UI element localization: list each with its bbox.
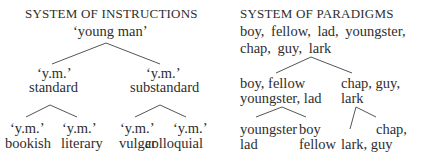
- right-l2-line1: youngster: [240, 122, 297, 136]
- left-l2-label: bookish: [5, 136, 51, 150]
- right-l1-line2: lark: [341, 91, 364, 105]
- left-l1-code: ‘y.m.’: [37, 66, 72, 80]
- branch-line: [26, 105, 50, 117]
- left-l2-label: colloquial: [145, 136, 203, 150]
- branch-line: [350, 107, 356, 129]
- left-l2-code: ‘y.m.’: [173, 121, 208, 135]
- branch-line: [311, 57, 352, 73]
- right-l2-line1: boy: [299, 122, 321, 136]
- left-l2-code: ‘y.m.’: [120, 121, 155, 135]
- branch-line: [106, 43, 160, 64]
- right-root-line2: chap, guy, lark: [240, 41, 331, 55]
- left-root: ‘young man’: [73, 24, 148, 38]
- branch-line: [50, 105, 77, 117]
- right-title: SYSTEM OF PARADIGMS: [240, 7, 394, 21]
- branch-line: [276, 57, 311, 73]
- left-l1-label: standard: [29, 80, 78, 94]
- right-l1-line2: youngster, lad: [240, 91, 322, 105]
- left-l2-label: literary: [61, 136, 103, 150]
- left-l1-label: substandard: [130, 80, 199, 94]
- branch-line: [52, 43, 106, 64]
- branch-line: [356, 107, 376, 117]
- right-root-line1: boy, fellow, lad, youngster,: [240, 24, 406, 38]
- right-l2-line2: fellow: [299, 137, 336, 151]
- branch-line: [160, 105, 186, 117]
- right-l1-line1: chap, guy,: [341, 76, 400, 90]
- right-l2-line2: lad: [240, 137, 258, 151]
- right-l1-line1: boy, fellow: [240, 76, 305, 90]
- left-l2-code: ‘y.m.’: [10, 121, 45, 135]
- right-l2-line1: chap,: [376, 122, 407, 136]
- left-title: SYSTEM OF INSTRUCTIONS: [25, 7, 198, 21]
- branch-line: [282, 107, 306, 117]
- branch-line: [256, 107, 282, 117]
- left-l2-code: ‘y.m.’: [62, 121, 97, 135]
- left-l1-code: ‘y.m.’: [146, 66, 181, 80]
- right-l2-line2: lark, guy: [341, 137, 393, 151]
- branch-line: [135, 105, 160, 117]
